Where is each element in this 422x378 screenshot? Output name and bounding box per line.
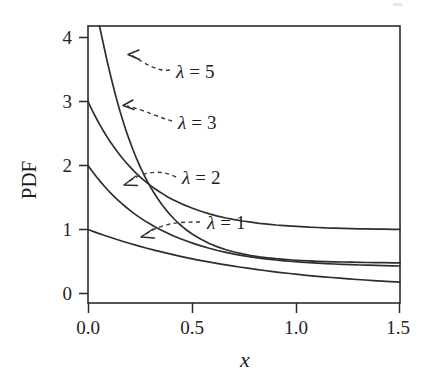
y-axis-title: PDF — [17, 161, 41, 200]
annotation-lambda-5-leader — [131, 55, 170, 70]
annotation-lambda-1-leader — [146, 222, 200, 234]
y-tick-label-4: 4 — [63, 27, 73, 48]
curve-lambda-3 — [88, 102, 400, 230]
equals-sign-3: = — [191, 112, 202, 133]
y-axis-tick-labels: 4 3 2 1 0 — [63, 27, 73, 304]
y-tick-label-0: 0 — [63, 283, 73, 304]
lambda-value-2: 2 — [211, 167, 221, 188]
annotation-lambda-2-label: λ=2 — [181, 167, 220, 188]
lambda-symbol-2: λ — [181, 167, 190, 188]
annotation-lambda-3: λ=3 — [123, 100, 216, 133]
x-axis-tick-labels: 0.0 0.5 1.0 1.5 — [76, 317, 410, 338]
lambda-symbol-1: λ — [206, 212, 215, 233]
curve-lambda-5 — [100, 26, 401, 263]
lambda-value-5: 5 — [205, 61, 215, 82]
figure-root: 4 3 2 1 0 0.0 0.5 1.0 1.5 x PDF — [0, 0, 422, 378]
lambda-value-3: 3 — [207, 112, 217, 133]
x-axis-title: x — [239, 347, 250, 372]
lambda-value-1: 1 — [236, 212, 246, 233]
annotation-lambda-3-arrowhead — [123, 100, 134, 110]
equals-sign-1: = — [220, 212, 231, 233]
y-tick-label-2: 2 — [63, 155, 73, 176]
annotation-lambda-2: λ=2 — [124, 167, 220, 188]
annotation-lambda-1-label: λ=1 — [206, 212, 245, 233]
exponential-pdf-chart: 4 3 2 1 0 0.0 0.5 1.0 1.5 x PDF — [0, 0, 422, 378]
x-tick-label-1: 0.5 — [180, 317, 204, 338]
annotation-lambda-3-label: λ=3 — [177, 112, 216, 133]
scan-artifact — [393, 3, 402, 6]
x-tick-label-3: 1.5 — [386, 317, 410, 338]
annotation-lambda-5-label: λ=5 — [175, 61, 214, 82]
annotation-lambda-5: λ=5 — [128, 50, 214, 82]
lambda-symbol-5: λ — [175, 61, 184, 82]
lambda-symbol-3: λ — [177, 112, 186, 133]
annotation-lambda-3-leader — [127, 106, 172, 121]
x-tick-label-2: 1.0 — [284, 317, 308, 338]
annotation-lambda-5-arrowhead — [128, 50, 140, 60]
y-axis-ticks — [79, 38, 88, 294]
annotation-lambda-2-arrowhead — [124, 176, 138, 186]
equals-sign-5: = — [189, 61, 200, 82]
x-axis-ticks — [89, 303, 400, 313]
x-tick-label-0: 0.0 — [76, 317, 100, 338]
y-tick-label-1: 1 — [63, 219, 73, 240]
y-tick-label-3: 3 — [63, 91, 73, 112]
equals-sign-2: = — [195, 167, 206, 188]
